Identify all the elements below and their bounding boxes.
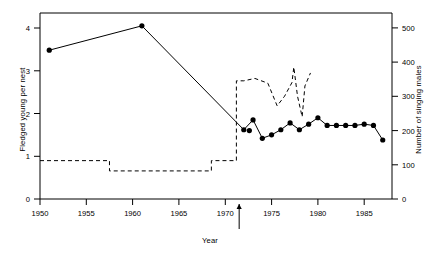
- intervention-arrow: [237, 204, 242, 229]
- y-axis-left-ticks: [34, 28, 40, 199]
- svg-text:0: 0: [402, 195, 406, 204]
- svg-text:4: 4: [26, 24, 30, 33]
- series-fledged-young: [49, 26, 382, 140]
- svg-text:500: 500: [402, 24, 415, 33]
- svg-text:1985: 1985: [356, 209, 373, 218]
- svg-text:1970: 1970: [217, 209, 234, 218]
- y-axis-right-ticks: [392, 28, 398, 199]
- svg-text:1965: 1965: [170, 209, 187, 218]
- svg-text:1975: 1975: [263, 209, 280, 218]
- x-axis-tick-labels: 1950 1955 1960 1965 1970 1975 1980 1985: [32, 209, 373, 218]
- y-axis-right-title: Number of singing males: [414, 50, 423, 170]
- series-fledged-young-markers: [47, 23, 386, 142]
- x-axis-title: Year: [180, 236, 240, 245]
- x-axis-ticks: [40, 199, 364, 205]
- svg-text:0: 0: [26, 195, 30, 204]
- y-axis-left-title: Fledged young per nest: [18, 50, 27, 170]
- svg-text:1955: 1955: [78, 209, 95, 218]
- svg-text:1980: 1980: [309, 209, 326, 218]
- plot-frame: [40, 13, 392, 199]
- svg-text:1950: 1950: [32, 209, 49, 218]
- chart-plot: 0 1 2 3 4 0 100 200 300 400 500: [0, 0, 436, 255]
- figure-container: 0 1 2 3 4 0 100 200 300 400 500: [0, 0, 436, 255]
- svg-text:1960: 1960: [124, 209, 141, 218]
- series-singing-males: [40, 67, 310, 171]
